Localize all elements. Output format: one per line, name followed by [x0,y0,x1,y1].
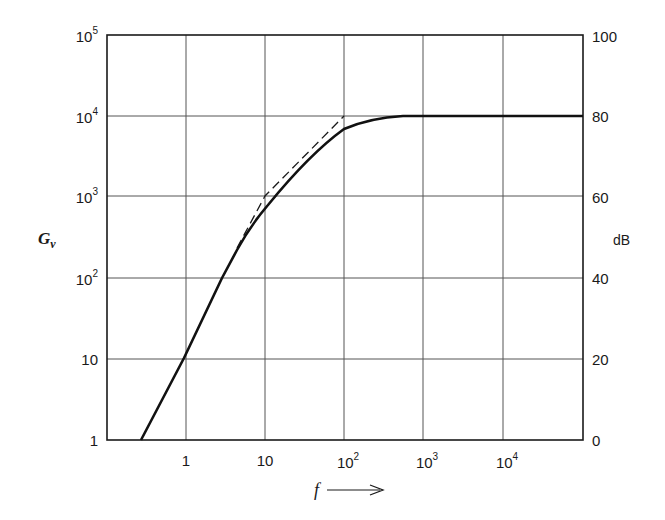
svg-text:1: 1 [182,452,190,469]
vertical-gridlines [186,35,503,440]
svg-text:10: 10 [257,452,274,469]
arrow-right-icon [327,485,383,495]
svg-text:0: 0 [592,432,600,449]
horizontal-gridlines [107,116,583,359]
svg-text:1: 1 [90,432,98,449]
svg-text:102: 102 [76,268,99,288]
left-axis-labels: 1 10 102 103 104 105 [76,25,99,449]
svg-text:104: 104 [76,106,99,126]
svg-text:100: 100 [592,28,617,45]
svg-text:103: 103 [76,186,99,206]
svg-text:20: 20 [592,351,609,368]
right-axis-unit-label: dB [613,232,630,248]
svg-text:104: 104 [496,451,519,471]
bode-gain-chart: 1 10 102 103 104 105 0 20 40 60 80 100 1… [0,0,665,520]
svg-text:105: 105 [76,25,99,45]
svg-text:103: 103 [416,451,439,471]
svg-text:102: 102 [337,451,360,471]
bottom-axis-labels: 1 10 102 103 104 [182,451,519,471]
asymptote-dashed-line [237,116,344,248]
x-axis-label: f [314,480,322,500]
svg-text:10: 10 [81,351,98,368]
plot-frame [107,35,583,440]
y-axis-label: Gv [38,229,56,251]
svg-text:40: 40 [592,270,609,287]
svg-text:80: 80 [592,108,609,125]
svg-text:60: 60 [592,189,609,206]
